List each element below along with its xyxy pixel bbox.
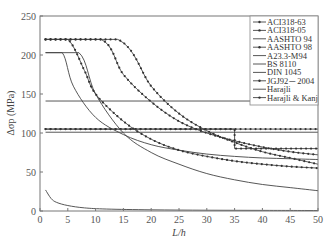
y-tick-label: 250: [21, 11, 36, 22]
y-tick-label: 50: [26, 167, 36, 178]
x-tick-label: 0: [38, 214, 43, 225]
legend-entry: Harajli & Kanj: [267, 93, 318, 103]
y-tick-label: 150: [21, 89, 36, 100]
x-tick-label: 15: [118, 214, 128, 225]
x-tick-label: 45: [285, 214, 295, 225]
x-tick-label: 25: [174, 214, 184, 225]
x-tick-label: 40: [257, 214, 267, 225]
line-chart: 050100150200250 05101520253035404550 L/h…: [0, 0, 331, 243]
y-tick-label: 100: [21, 128, 36, 139]
x-tick-label: 5: [65, 214, 70, 225]
y-axis-label: Δσp (MPa): [5, 91, 17, 136]
x-tick-label: 35: [230, 214, 240, 225]
series-line: [46, 190, 318, 211]
x-tick-label: 50: [313, 214, 323, 225]
x-tick-label: 10: [91, 214, 101, 225]
x-axis-label: L/h: [171, 227, 185, 238]
y-tick-label: 200: [21, 50, 36, 61]
legend: ACI318-63ACI318-05AASHTO 94AASHTO 98A23.…: [250, 16, 318, 105]
x-tick-label: 30: [202, 214, 212, 225]
x-tick-label: 20: [146, 214, 156, 225]
y-tick-label: 0: [31, 206, 36, 217]
